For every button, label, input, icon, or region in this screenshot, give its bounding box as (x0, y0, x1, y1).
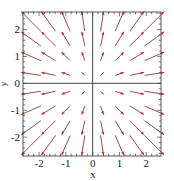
arrowhead-icon (62, 72, 65, 75)
vector-arrow (82, 91, 85, 94)
y-tick-label: -2 (11, 131, 20, 143)
arrowhead-icon (81, 52, 84, 55)
arrowhead-icon (101, 52, 104, 55)
y-axis-label: y (0, 81, 8, 86)
vector-field-plot: -2-1012-2-1012 x y (0, 0, 174, 181)
vector-arrow (115, 106, 124, 115)
vector-arrow (62, 106, 71, 115)
vector-arrow (130, 106, 144, 115)
vector-arrow (41, 52, 55, 61)
tick-labels: -2-1012-2-1012 (11, 23, 149, 169)
arrowhead-icon (101, 111, 104, 114)
vector-arrow (62, 32, 71, 46)
vector-arrow (101, 52, 104, 61)
vector-arrow (21, 32, 41, 46)
x-tick-label: -1 (61, 157, 70, 169)
vector-arrow (41, 12, 55, 32)
vector-arrow (21, 91, 41, 95)
vector-arrow (41, 121, 55, 135)
vector-arrow (41, 32, 55, 46)
vector-arrow (101, 32, 105, 46)
vector-arrow (62, 121, 71, 135)
x-tick-label: -2 (34, 157, 43, 169)
y-tick-label: 2 (15, 23, 21, 35)
y-tick-label: -1 (11, 104, 20, 116)
x-axis-label: x (90, 168, 96, 180)
vector-arrow (130, 12, 144, 32)
vector-arrow (81, 12, 85, 32)
vector-arrow (101, 12, 105, 32)
vector-arrow (62, 72, 71, 75)
arrowhead-icon (120, 72, 123, 75)
vector-arrow (130, 52, 144, 61)
vector-arrow (81, 135, 85, 155)
vector-arrow (41, 72, 55, 76)
vector-arrow (81, 32, 85, 46)
vector-arrow (130, 32, 144, 46)
vector-arrow (115, 91, 124, 94)
vector-arrow (41, 106, 55, 115)
vector-arrow (21, 121, 41, 135)
vector-arrow (21, 71, 41, 75)
vector-arrow (101, 121, 105, 135)
vector-arrow (82, 72, 85, 75)
vector-arrow (81, 106, 84, 115)
vector-arrow (130, 72, 144, 76)
x-tick-label: 2 (144, 157, 150, 169)
vector-arrow (41, 135, 55, 155)
vector-arrow (101, 135, 105, 155)
vector-arrow (21, 135, 41, 155)
y-tick-label: 0 (15, 77, 21, 89)
arrowhead-icon (62, 92, 65, 95)
vector-arrow (130, 135, 144, 155)
vector-arrow (41, 91, 55, 95)
vector-arrow (115, 52, 124, 61)
vector-arrow (62, 52, 71, 61)
x-tick-label: 1 (117, 157, 123, 169)
vector-arrow (101, 91, 104, 94)
vector-arrow (115, 32, 124, 46)
vector-arrow (130, 91, 144, 95)
vector-arrow (81, 121, 85, 135)
vector-arrow (21, 12, 41, 32)
vector-arrow (130, 121, 144, 135)
vector-arrow (115, 121, 124, 135)
vector-arrow (115, 72, 124, 75)
y-tick-label: 1 (15, 50, 21, 62)
vector-arrow (101, 72, 104, 75)
vector-arrow (62, 91, 71, 94)
arrowhead-icon (81, 111, 84, 114)
vector-arrow (81, 52, 84, 61)
vector-arrow (101, 106, 104, 115)
arrowhead-icon (120, 92, 123, 95)
